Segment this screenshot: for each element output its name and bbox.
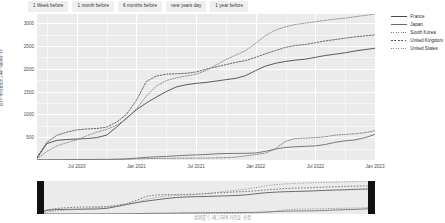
x-axis-ticks: Jul 2020Jan 2021Jul 2021Jan 2022Jul 2022… (37, 161, 375, 173)
series-lines (37, 14, 375, 160)
y-tick-label: 1500 (4, 89, 34, 94)
legend-item[interactable]: United States (391, 46, 443, 51)
legend-item[interactable]: Japan (391, 22, 443, 27)
x-tick-label: Jul 2021 (187, 164, 204, 169)
range-6-months-button[interactable]: 6 months before (118, 1, 162, 12)
series-line-south-korea (37, 131, 375, 160)
y-axis-ticks: 50010001500200025003000 (0, 14, 34, 160)
legend: FranceJapanSouth KoreaUnited KingdomUnit… (391, 14, 443, 51)
x-tick-label: Jul 2022 (307, 164, 324, 169)
chart-app: 1 Week before 1 month before 6 months be… (0, 0, 445, 223)
y-tick-label: 3000 (4, 21, 34, 26)
legend-swatch-united-states (391, 48, 407, 49)
legend-item[interactable]: United Kingdom (391, 38, 443, 43)
range-slider[interactable] (37, 181, 375, 214)
legend-label: United States (410, 46, 438, 51)
legend-swatch-united-kingdom (391, 40, 407, 41)
range-end-handle[interactable] (368, 181, 375, 214)
series-line-united-states (37, 14, 375, 159)
legend-swatch-japan (391, 24, 407, 25)
legend-item[interactable]: France (391, 14, 443, 19)
range-1-week-button[interactable]: 1 Week before (28, 1, 68, 12)
legend-label: France (410, 14, 424, 19)
mini-series-line-france (37, 189, 375, 214)
legend-swatch-france (391, 16, 407, 17)
series-line-france (37, 48, 375, 158)
range-1-month-button[interactable]: 1 month before (72, 1, 114, 12)
y-tick-label: 2000 (4, 66, 34, 71)
legend-label: United Kingdom (410, 38, 443, 43)
y-tick-label: 2500 (4, 43, 34, 48)
slider-caption: 범위를 드래그하여 기간을 조정 (0, 214, 445, 220)
x-tick-label: Jan 2022 (246, 164, 265, 169)
range-start-handle[interactable] (37, 181, 44, 214)
y-tick-label: 1000 (4, 112, 34, 117)
range-1-year-button[interactable]: 1 year before (210, 1, 248, 12)
legend-item[interactable]: South Korea (391, 30, 443, 35)
time-range-toolbar: 1 Week before 1 month before 6 months be… (28, 1, 248, 12)
legend-label: South Korea (410, 30, 436, 35)
legend-swatch-south-korea (391, 32, 407, 33)
legend-label: Japan (410, 22, 423, 27)
plot-area (37, 14, 375, 160)
range-slider-preview (37, 181, 375, 214)
range-new-years-day-button[interactable]: new years day (166, 1, 206, 12)
x-tick-label: Jul 2020 (68, 164, 85, 169)
y-tick-label: 500 (4, 135, 34, 140)
x-tick-label: Jan 2023 (366, 164, 385, 169)
x-tick-label: Jan 2021 (127, 164, 146, 169)
